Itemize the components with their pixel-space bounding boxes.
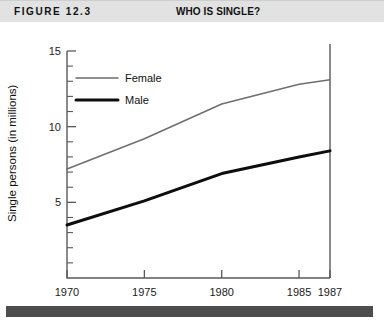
x-tick-label: 1985 <box>287 286 311 298</box>
x-axis-tick-labels: 19701975198019851987 <box>55 286 342 298</box>
y-axis-ticks <box>67 51 76 263</box>
y-axis-tick-labels: 51015 <box>49 45 61 208</box>
series-line-female <box>67 80 330 169</box>
figure-number-label: FIGURE 12.3 <box>14 6 92 17</box>
chart-legend: Female Male <box>76 72 162 106</box>
chart-plot-area: 51015 19701975198019851987 Single person… <box>0 22 384 300</box>
figure-header-band: FIGURE 12.3 WHO IS SINGLE? <box>0 0 384 23</box>
legend-label-female: Female <box>125 72 162 84</box>
x-tick-label: 1980 <box>209 286 233 298</box>
x-tick-label: 1970 <box>55 286 79 298</box>
y-tick-label: 15 <box>49 45 61 57</box>
series-line-male <box>67 151 330 225</box>
y-tick-label: 10 <box>49 121 61 133</box>
chart-title: WHO IS SINGLE? <box>176 6 260 17</box>
x-axis-ticks <box>67 270 330 278</box>
chart-axes <box>67 44 330 278</box>
line-chart-svg: 51015 19701975198019851987 Single person… <box>0 22 384 300</box>
legend-label-male: Male <box>125 94 149 106</box>
x-tick-label: 1987 <box>318 286 342 298</box>
y-axis-title: Single persons (in millions) <box>6 84 18 222</box>
y-tick-label: 5 <box>55 196 61 208</box>
x-tick-label: 1975 <box>132 286 156 298</box>
footer-rule <box>6 306 373 317</box>
